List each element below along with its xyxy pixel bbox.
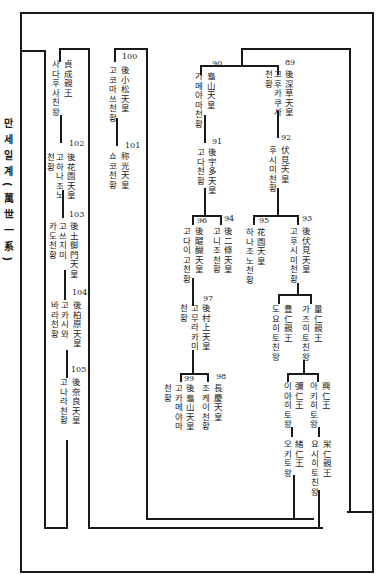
line-96-97: [192, 278, 194, 306]
number: 102: [69, 139, 84, 148]
korean: 이야히토왕: [282, 382, 291, 430]
number: 100: [122, 52, 137, 61]
korean: 조케이천황: [200, 384, 209, 432]
korean: 바라천황: [49, 301, 58, 339]
kanji: 伏見天皇: [279, 146, 288, 184]
number: 98: [216, 372, 226, 381]
bracket-89-90-right: [349, 48, 351, 513]
number: 93: [302, 214, 312, 223]
line-oki-down: [293, 475, 295, 520]
outer-frame-top: [20, 12, 374, 14]
number: 90: [212, 59, 222, 68]
korean: 천황: [178, 304, 187, 323]
kanji: 後宇多天皇: [206, 148, 215, 196]
kanji: 栄仁親王: [321, 440, 330, 478]
korean: 고다천황: [195, 148, 204, 186]
korean: 고하나조노: [54, 153, 63, 201]
kanji: 後醍醐天皇: [193, 227, 202, 275]
connector-left-top: [20, 50, 45, 52]
number: 104: [72, 288, 87, 297]
bracket-100-top: [114, 48, 147, 50]
korean: 아키히토왕: [308, 382, 317, 430]
korean: 천황: [162, 384, 171, 403]
bracket-toyo-left: [278, 294, 280, 304]
number: 97: [203, 294, 213, 303]
kanji: 称光天皇: [119, 152, 128, 190]
line-kazu-down: [303, 360, 305, 374]
kanji: 豊仁親王: [282, 305, 291, 343]
korean: 쇼코천황: [107, 152, 116, 190]
kanji: 貞成親王: [62, 60, 71, 98]
kanji: 後土御門天皇: [68, 222, 77, 279]
number: 95: [259, 216, 269, 225]
bracket-99-left: [180, 373, 182, 382]
korean: 가메야마천황: [193, 72, 202, 129]
kanji: 後奈良天皇: [70, 378, 79, 426]
number: 89: [285, 58, 295, 67]
korean: 천황: [45, 153, 54, 172]
line-sadafusa-102: [60, 115, 62, 143]
korean: 고니조천황: [211, 227, 220, 275]
outer-frame-left: [20, 12, 22, 133]
kanji: 後深草天皇: [283, 70, 292, 118]
connector-left-bottom: [44, 527, 68, 529]
outer-frame-left-lower: [20, 133, 22, 573]
bracket-toyo-kazu: [278, 294, 311, 296]
korean: 고무라카미: [189, 304, 198, 352]
line-97-down: [192, 350, 194, 374]
line-105-down: [66, 440, 68, 529]
korean: 요시히토친왕: [309, 440, 318, 497]
bracket-100-right: [146, 48, 148, 520]
korean: 가즈히토친왕: [300, 305, 309, 362]
bracket-93-right: [297, 215, 299, 225]
korean: 후시미천황: [267, 146, 276, 194]
bracket-mid-up: [241, 48, 243, 66]
number: 94: [224, 214, 234, 223]
bracket-89-90-top: [241, 48, 351, 50]
kanji: 後柏原天皇: [71, 301, 80, 349]
kanji: 花園天皇: [255, 228, 264, 266]
number: 99: [184, 374, 194, 383]
bracket-iya-left: [287, 373, 289, 382]
korean: 고나라천황: [58, 378, 67, 426]
bracket-95-left: [253, 215, 255, 225]
kanji: 量仁親王: [312, 305, 321, 343]
korean: 고카시와: [59, 301, 68, 339]
bracket-right-bottom: [347, 511, 374, 513]
korean: 카도천황: [47, 222, 56, 260]
kanji: 龜山天皇: [205, 72, 214, 110]
bracket-sadafusa-right: [88, 48, 90, 528]
korean: 고다이고천황: [181, 227, 190, 284]
bracket-iya-aki: [287, 373, 318, 375]
kanji: 後龜山天皇: [184, 384, 193, 432]
korean: 하나조노천황: [244, 228, 253, 285]
outer-frame-right: [372, 12, 374, 573]
kanji: 彌仁王: [293, 382, 302, 411]
inner-frame-bottom-2: [146, 518, 314, 520]
number: 105: [71, 365, 86, 374]
outer-frame-bottom: [20, 571, 374, 573]
kanji: 後村上天皇: [200, 304, 209, 352]
kanji: 後小松天皇: [119, 66, 128, 114]
kanji: 後伏見天皇: [300, 227, 309, 275]
bracket-aki-right: [317, 373, 319, 382]
number: 91: [212, 137, 222, 146]
line-104-105: [66, 350, 68, 378]
bracket-96-left: [192, 215, 194, 225]
line-aki-yoshi: [318, 427, 320, 437]
chart-title: 만세일계(萬世一系): [0, 118, 15, 267]
bracket-kazu-right: [310, 294, 312, 304]
line-90-91: [204, 115, 206, 143]
korean: 고카메야마: [173, 384, 182, 432]
kanji: 興仁王: [320, 382, 329, 411]
kanji: 長慶天皇: [212, 384, 221, 422]
korean: 고쓰치미: [57, 222, 66, 260]
korean: 오키토왕: [282, 440, 291, 478]
korean: 고후카쿠사: [272, 70, 281, 118]
kanji: 後二條天皇: [222, 227, 231, 275]
bracket-98-right: [207, 373, 209, 382]
number: 96: [197, 216, 207, 225]
korean: 고후시미천황: [288, 227, 297, 284]
kanji: 後花園天皇: [65, 153, 74, 201]
line-103-104: [64, 270, 66, 300]
